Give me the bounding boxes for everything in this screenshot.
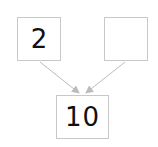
part-box-left[interactable]: 2 [17,17,61,61]
part-left-value: 2 [31,24,48,54]
arrow-left-to-whole [40,62,79,93]
arrow-right-to-whole [86,62,125,93]
whole-box[interactable]: 10 [56,95,109,139]
whole-value: 10 [65,102,100,132]
part-box-right[interactable] [104,17,148,61]
